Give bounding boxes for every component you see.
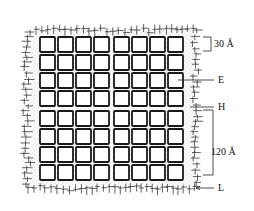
grid-cell: [76, 165, 91, 180]
grid-cell: [58, 73, 73, 88]
grid-cell: [94, 55, 109, 70]
label-L: L: [218, 183, 224, 193]
bracket-30A: [203, 37, 211, 51]
grid-cell: [94, 111, 109, 126]
grid-cell: [76, 73, 91, 88]
grid-cell: [76, 147, 91, 162]
grid-cell: [132, 111, 147, 126]
bracket-120A: [203, 110, 213, 175]
grid-cell: [58, 147, 73, 162]
grid-cell: [94, 73, 109, 88]
grid-cell: [114, 73, 129, 88]
grid-cell: [150, 91, 165, 106]
grid-cell: [168, 55, 183, 70]
grid-cell: [114, 129, 129, 144]
grid-cell: [40, 37, 55, 52]
grid-cell: [168, 91, 183, 106]
grid-cell: [168, 165, 183, 180]
grid-cell: [150, 111, 165, 126]
grid-cell: [168, 73, 183, 88]
grid-cell: [132, 165, 147, 180]
grid-cell: [40, 73, 55, 88]
grid-cell: [94, 129, 109, 144]
grid-cell: [132, 91, 147, 106]
grid-cell: [168, 111, 183, 126]
grid-cell: [114, 37, 129, 52]
grid-cell: [94, 147, 109, 162]
grid-cell: [150, 55, 165, 70]
grid-cell: [132, 73, 147, 88]
grid-cell: [40, 111, 55, 126]
grid-cell: [132, 129, 147, 144]
grid-cell: [114, 147, 129, 162]
grid-cell: [150, 129, 165, 144]
grid-cell: [40, 165, 55, 180]
grid-cell: [168, 147, 183, 162]
grid-cell: [40, 147, 55, 162]
grid-cell: [40, 55, 55, 70]
label-H: H: [218, 102, 225, 112]
grid-cell: [150, 73, 165, 88]
grid-cell: [150, 147, 165, 162]
grid-cell: [114, 111, 129, 126]
grid-cell: [114, 55, 129, 70]
grid-cell: [76, 91, 91, 106]
grid-cell: [150, 37, 165, 52]
grid-cell: [132, 147, 147, 162]
grid-cell: [94, 37, 109, 52]
label-30-angstrom: 30 Å: [214, 39, 234, 49]
grid-cell: [168, 129, 183, 144]
grid-cell: [58, 37, 73, 52]
grid-cell: [58, 111, 73, 126]
grid-cell: [94, 165, 109, 180]
grid-cell: [76, 55, 91, 70]
grid-cell: [76, 37, 91, 52]
grid-cell: [40, 129, 55, 144]
lattice-diagram: 30 Å E H 120 Å L: [0, 0, 254, 211]
grid-cell: [114, 165, 129, 180]
label-120-angstrom: 120 Å: [211, 147, 236, 157]
grid-cell: [76, 111, 91, 126]
grid-cell: [132, 37, 147, 52]
grid-cell: [76, 129, 91, 144]
grid-cell: [94, 91, 109, 106]
grid-cell: [132, 55, 147, 70]
label-E: E: [218, 75, 224, 85]
grid-cell: [58, 55, 73, 70]
grid-cell: [58, 165, 73, 180]
grid-cell: [40, 91, 55, 106]
grid-cell: [58, 129, 73, 144]
grid-cell: [58, 91, 73, 106]
lattice-diagram-canvas: [0, 0, 254, 211]
grid-cell: [150, 165, 165, 180]
grid-cell: [168, 37, 183, 52]
grid-cell: [114, 91, 129, 106]
